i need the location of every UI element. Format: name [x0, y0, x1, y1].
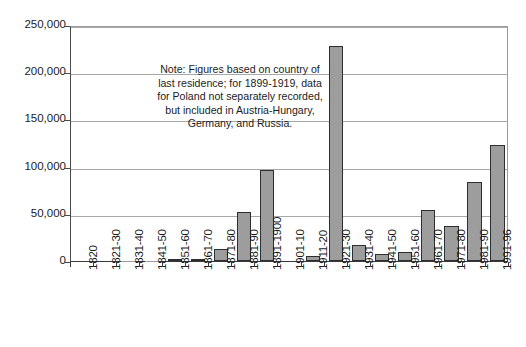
y-axis-tick-label: 200,000: [0, 65, 66, 77]
gridline: [71, 169, 507, 170]
x-axis-tick-mark: [485, 262, 486, 267]
x-axis-tick-mark: [462, 262, 463, 267]
y-axis-tick-label: 0: [0, 254, 66, 266]
x-axis-tick-mark: [162, 262, 163, 267]
y-axis-tick-label: 150,000: [0, 112, 66, 124]
x-axis-tick-mark: [439, 262, 440, 267]
y-axis-tick-label: 100,000: [0, 160, 66, 172]
x-axis-tick-mark: [508, 262, 509, 267]
x-axis-tick-mark: [93, 262, 94, 267]
y-axis-tick-label: 250,000: [0, 18, 66, 30]
x-axis-tick-mark: [116, 262, 117, 267]
x-axis-tick-mark: [254, 262, 255, 267]
x-axis-tick-mark: [277, 262, 278, 267]
bar-chart: 050,000100,000150,000200,000250,000 Note…: [0, 0, 526, 347]
x-axis-tick-mark: [231, 262, 232, 267]
figures-note-line: last residence; for 1899-1919, data: [145, 77, 335, 91]
x-axis-tick-mark: [70, 262, 71, 267]
x-axis-tick-mark: [416, 262, 417, 267]
y-axis-tick-label: 50,000: [0, 207, 66, 219]
figures-note-line: Germany, and Russia.: [145, 117, 335, 131]
x-axis-tick-mark: [393, 262, 394, 267]
x-axis-tick-mark: [347, 262, 348, 267]
figures-note-line: but included in Austria-Hungary,: [145, 104, 335, 118]
x-axis-tick-mark: [301, 262, 302, 267]
x-axis-tick-mark: [185, 262, 186, 267]
figures-note-line: Note: Figures based on country of: [145, 63, 335, 77]
figures-note-line: for Poland not separately recorded,: [145, 90, 335, 104]
x-axis-tick-mark: [139, 262, 140, 267]
figures-note: Note: Figures based on country oflast re…: [145, 63, 335, 131]
plot-area: Note: Figures based on country oflast re…: [70, 26, 508, 262]
gridline: [71, 216, 507, 217]
gridline: [71, 27, 507, 28]
chart-title: [0, 0, 526, 2]
x-axis-tick-mark: [370, 262, 371, 267]
x-axis-tick-mark: [324, 262, 325, 267]
x-axis-tick-mark: [208, 262, 209, 267]
